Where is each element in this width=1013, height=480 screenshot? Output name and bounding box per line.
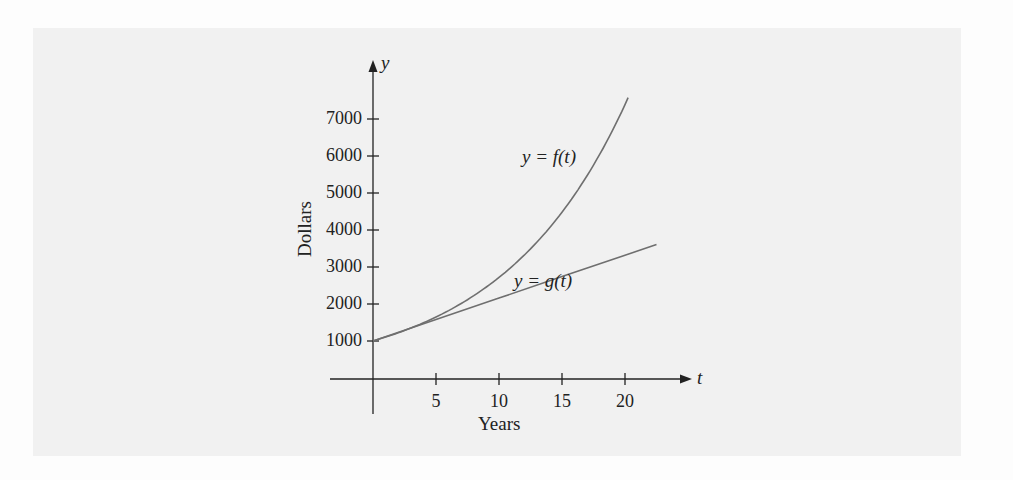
x-tick-label-10: 10 <box>479 391 519 412</box>
x-axis-symbol: t <box>697 367 702 389</box>
y-axis-symbol: y <box>381 52 389 74</box>
axes <box>330 66 684 414</box>
y-axis-arrow-icon <box>369 60 378 72</box>
x-tick-label-5: 5 <box>416 391 456 412</box>
y-tick-label-1000: 1000 <box>302 330 362 351</box>
g-curve-label: y = g(t) <box>514 270 572 292</box>
y-axis-title: Dollars <box>294 194 316 264</box>
x-tick-label-15: 15 <box>542 391 582 412</box>
curve-g-linear <box>373 244 657 341</box>
x-tick-label-20: 20 <box>605 391 645 412</box>
x-axis-arrow-icon <box>680 375 692 384</box>
y-tick-label-7000: 7000 <box>302 108 362 129</box>
y-tick-label-2000: 2000 <box>302 293 362 314</box>
x-axis-title: Years <box>478 413 520 435</box>
f-curve-label: y = f(t) <box>522 146 576 168</box>
y-tick-label-6000: 6000 <box>302 145 362 166</box>
curve-f-exponential <box>373 98 628 341</box>
